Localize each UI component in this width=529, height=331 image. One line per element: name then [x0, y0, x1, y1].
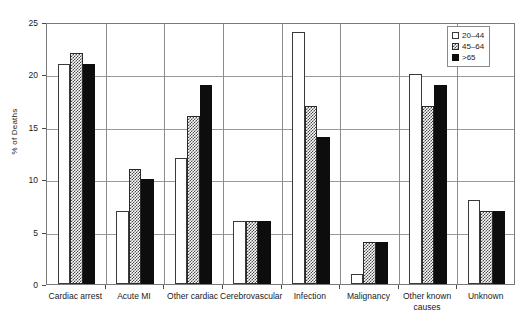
bar — [70, 53, 83, 284]
y-tick-label: 0 — [4, 280, 38, 290]
group-separator — [106, 24, 107, 284]
bar — [141, 179, 154, 284]
bar — [258, 221, 271, 284]
x-tick-mark — [398, 285, 399, 289]
legend-label: 45–64 — [462, 42, 484, 51]
bar — [233, 221, 246, 284]
group-separator — [164, 24, 165, 284]
plot-area — [46, 23, 515, 285]
x-tick-mark — [339, 285, 340, 289]
y-tick-mark — [42, 285, 46, 286]
y-tick-label: 15 — [4, 123, 38, 133]
group-separator — [282, 24, 283, 284]
bar — [317, 137, 330, 284]
group-separator — [399, 24, 400, 284]
bar — [187, 116, 200, 284]
bar — [58, 64, 71, 284]
legend-label: >65 — [462, 53, 476, 62]
bar — [200, 85, 213, 284]
legend-label: 20–44 — [462, 31, 484, 40]
legend-swatch-icon — [452, 54, 459, 61]
bar — [480, 211, 493, 284]
x-tick-mark — [105, 285, 106, 289]
y-tick-label: 5 — [4, 228, 38, 238]
x-tick-mark — [163, 285, 164, 289]
bar — [292, 32, 305, 284]
legend-swatch-icon — [452, 43, 459, 50]
bar — [376, 242, 389, 284]
legend-item: 20–44 — [452, 30, 484, 41]
bar — [116, 211, 129, 284]
bar — [493, 211, 506, 284]
bar — [83, 64, 96, 284]
bar — [351, 274, 364, 284]
bar — [305, 106, 318, 284]
bar — [363, 242, 376, 284]
legend-item: >65 — [452, 52, 484, 63]
legend-item: 45–64 — [452, 41, 484, 52]
y-tick-label: 10 — [4, 175, 38, 185]
bar — [434, 85, 447, 284]
gridline — [47, 76, 514, 77]
bar — [422, 106, 435, 284]
bar — [468, 200, 481, 284]
x-tick-label: Unknown — [450, 291, 521, 302]
bar — [246, 221, 259, 284]
legend: 20–4445–64>65 — [447, 26, 490, 67]
bar — [175, 158, 188, 284]
x-tick-mark — [456, 285, 457, 289]
bar-chart-figure: % of Deaths 0510152025 Cardiac arrestAcu… — [0, 0, 529, 331]
y-tick-label: 25 — [4, 18, 38, 28]
legend-swatch-icon — [452, 32, 459, 39]
y-tick-label: 20 — [4, 70, 38, 80]
x-tick-mark — [281, 285, 282, 289]
bar — [409, 74, 422, 284]
group-separator — [340, 24, 341, 284]
x-tick-mark — [222, 285, 223, 289]
bar — [129, 169, 142, 284]
group-separator — [223, 24, 224, 284]
